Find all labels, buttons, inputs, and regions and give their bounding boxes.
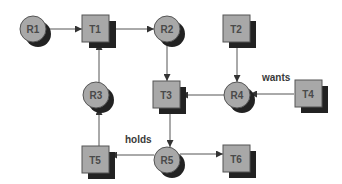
node-t5-label: T5 bbox=[89, 155, 101, 166]
node-r4-label: R4 bbox=[231, 90, 244, 101]
node-r1-label: R1 bbox=[27, 24, 40, 35]
edge-label-wants: wants bbox=[261, 72, 291, 83]
node-r2-label: R2 bbox=[161, 24, 174, 35]
node-r3-label: R3 bbox=[90, 90, 103, 101]
node-r2: R2 bbox=[154, 16, 185, 47]
node-r5-label: R5 bbox=[161, 155, 174, 166]
node-t4: T4 bbox=[295, 80, 328, 113]
node-r5: R5 bbox=[154, 147, 185, 178]
node-t2-label: T2 bbox=[230, 24, 242, 35]
node-t1-label: T1 bbox=[89, 24, 101, 35]
node-r4: R4 bbox=[224, 82, 255, 113]
node-r1: R1 bbox=[20, 16, 51, 47]
node-t3-label: T3 bbox=[160, 90, 172, 101]
node-t6-label: T6 bbox=[230, 154, 242, 165]
node-r3: R3 bbox=[83, 82, 114, 113]
node-t2: T2 bbox=[223, 15, 256, 48]
resource-allocation-graph: wants holds R1 T1 R2 T2 R3 T3 R4 bbox=[0, 0, 342, 184]
node-t1: T1 bbox=[82, 15, 116, 48]
node-t5: T5 bbox=[82, 146, 115, 179]
node-t6: T6 bbox=[223, 145, 256, 178]
node-t3: T3 bbox=[153, 81, 186, 114]
edge-label-holds: holds bbox=[125, 134, 152, 145]
node-t4-label: T4 bbox=[302, 89, 314, 100]
